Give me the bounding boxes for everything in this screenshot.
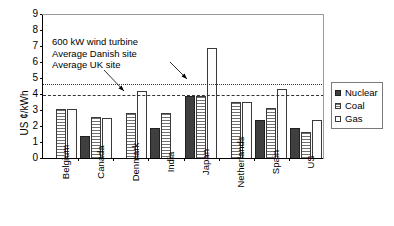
x-axis-label: Denmark <box>130 143 141 182</box>
bar-nuclear <box>80 136 90 158</box>
y-tick-mark <box>40 126 43 127</box>
bar-nuclear <box>185 96 195 158</box>
legend-label-gas: Gas <box>345 113 362 124</box>
x-label-cell: Denmark <box>112 161 147 225</box>
bar-gas <box>277 89 287 158</box>
x-label-cell: US <box>288 161 323 225</box>
legend-swatch-nuclear <box>335 90 341 96</box>
y-tick-mark <box>40 142 43 143</box>
x-axis-label: Japan <box>200 149 211 175</box>
y-tick-mark <box>40 78 43 79</box>
bar-group <box>254 14 289 158</box>
bar-nuclear <box>255 120 265 158</box>
x-label-cell: Netherlands <box>218 161 253 225</box>
legend-label-nuclear: Nuclear <box>345 87 378 98</box>
legend-item-gas: Gas <box>335 112 378 125</box>
y-tick-mark <box>40 158 43 159</box>
annotation-line-1: 600 kW wind turbine <box>52 36 138 48</box>
legend-item-nuclear: Nuclear <box>335 86 378 99</box>
bar-nuclear <box>150 128 160 158</box>
annotation-line-3: Average UK site <box>52 59 138 71</box>
x-label-cell: Belgium <box>42 161 77 225</box>
bar-coal <box>301 132 311 158</box>
y-axis-title: US ¢/kWh <box>19 90 30 135</box>
chart-legend: Nuclear Coal Gas <box>331 82 383 129</box>
x-label-cell: India <box>147 161 182 225</box>
legend-swatch-gas <box>335 116 341 122</box>
x-axis-label: Canada <box>95 145 106 178</box>
x-axis-labels: BelgiumCanadaDenmarkIndiaJapanNetherland… <box>42 161 323 225</box>
x-axis-label: Netherlands <box>235 136 246 187</box>
y-tick-mark <box>40 30 43 31</box>
x-label-cell: Japan <box>183 161 218 225</box>
bar-group <box>148 14 183 158</box>
y-tick-mark <box>40 94 43 95</box>
y-tick-mark <box>40 14 43 15</box>
x-axis-label: India <box>165 152 176 173</box>
y-tick-mark <box>40 62 43 63</box>
legend-swatch-coal <box>335 103 341 109</box>
bar-nuclear <box>290 128 300 158</box>
legend-label-coal: Coal <box>345 100 365 111</box>
bar-group <box>184 14 219 158</box>
reference-line <box>43 95 324 96</box>
bar-gas <box>207 48 217 158</box>
reference-line <box>43 84 324 85</box>
x-axis-label: Spain <box>270 150 281 174</box>
bar-gas <box>312 120 322 158</box>
x-axis-label: US <box>305 155 316 168</box>
legend-item-coal: Coal <box>335 99 378 112</box>
chart-annotation: 600 kW wind turbine Average Danish site … <box>52 36 138 71</box>
x-label-cell: Canada <box>77 161 112 225</box>
x-label-cell: Spain <box>253 161 288 225</box>
y-tick-mark <box>40 110 43 111</box>
x-axis-label: Belgium <box>60 145 71 179</box>
bar-group <box>289 14 324 158</box>
y-tick-mark <box>40 46 43 47</box>
chart-container: US ¢/kWh 0123456789 600 kW wind turbine … <box>0 0 394 226</box>
annotation-line-2: Average Danish site <box>52 48 138 60</box>
